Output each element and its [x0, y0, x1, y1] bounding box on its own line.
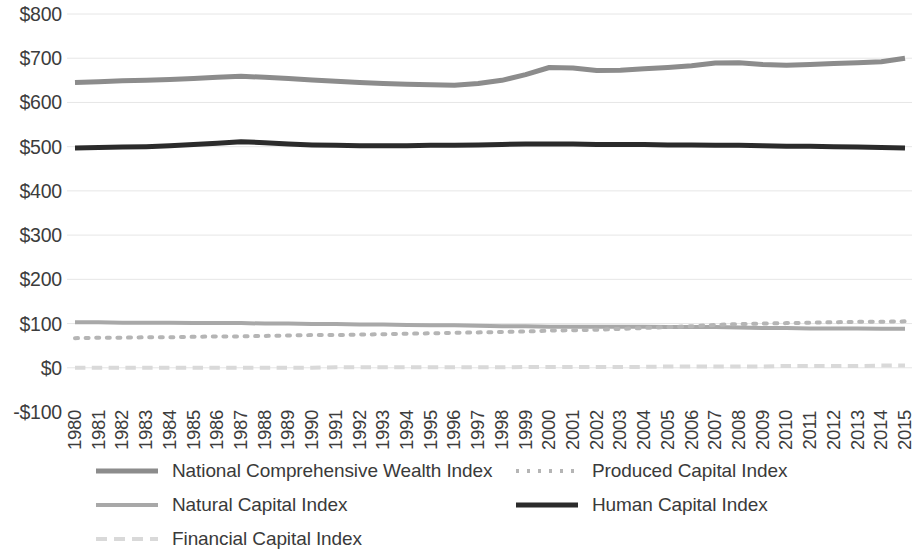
plot-area	[67, 8, 912, 376]
x-axis: 1980198119821983198419851986198719881989…	[67, 380, 912, 450]
x-axis-tick-label: 1998	[493, 410, 512, 450]
x-axis-tick-label: 2004	[635, 410, 654, 450]
x-axis-tick-label: 1987	[232, 410, 251, 450]
x-axis-tick-label: 1983	[137, 410, 156, 450]
y-axis-tick-label: -$100	[0, 401, 62, 424]
y-axis: $800$700$600$500$400$300$200$100$0-$100	[0, 0, 62, 420]
x-axis-tick-label: 2001	[564, 410, 583, 450]
x-axis-tick-label: 1993	[374, 410, 393, 450]
x-axis-tick-label: 1999	[517, 410, 536, 450]
legend-label: National Comprehensive Wealth Index	[172, 460, 492, 482]
x-axis-tick-label: 2005	[659, 410, 678, 450]
legend-item[interactable]: Natural Capital Index	[96, 492, 347, 518]
line-chart: $800$700$600$500$400$300$200$100$0-$100 …	[0, 0, 920, 554]
legend-label: Natural Capital Index	[172, 494, 347, 516]
x-axis-tick-label: 2013	[849, 410, 868, 450]
x-axis-tick-label: 2010	[777, 410, 796, 450]
x-axis-tick-label: 1986	[208, 410, 227, 450]
x-axis-tick-label: 2009	[754, 410, 773, 450]
x-axis-tick-label: 2015	[896, 410, 915, 450]
x-axis-tick-label: 2011	[801, 411, 820, 450]
legend-item[interactable]: National Comprehensive Wealth Index	[96, 458, 492, 484]
x-axis-tick-label: 1994	[398, 410, 417, 450]
x-axis-tick-label: 1996	[445, 410, 464, 450]
x-axis-tick-label: 1982	[113, 410, 132, 450]
x-axis-tick-label: 2003	[611, 410, 630, 450]
series-line	[75, 58, 905, 85]
y-axis-tick-label: $600	[0, 91, 62, 114]
legend-swatch-icon	[96, 532, 158, 546]
y-axis-tick-label: $500	[0, 135, 62, 158]
legend-swatch-icon	[516, 498, 578, 512]
y-axis-tick-label: $200	[0, 268, 62, 291]
legend-swatch-icon	[96, 464, 158, 478]
y-axis-tick-label: $400	[0, 179, 62, 202]
x-axis-tick-label: 1985	[185, 410, 204, 450]
x-axis-tick-label: 1995	[422, 410, 441, 450]
plot-svg	[67, 8, 912, 376]
y-axis-tick-label: $700	[0, 47, 62, 70]
x-axis-tick-label: 1981	[90, 410, 109, 450]
legend-swatch-icon	[516, 464, 578, 478]
x-axis-tick-label: 2000	[540, 410, 559, 450]
legend-item[interactable]: Human Capital Index	[516, 492, 768, 518]
chart-legend: National Comprehensive Wealth IndexNatur…	[96, 458, 856, 554]
y-axis-tick-label: $300	[0, 224, 62, 247]
legend-item[interactable]: Financial Capital Index	[96, 526, 362, 552]
x-axis-tick-label: 1980	[66, 410, 85, 450]
legend-item[interactable]: Produced Capital Index	[516, 458, 787, 484]
x-axis-tick-label: 2007	[706, 410, 725, 450]
x-axis-tick-label: 2014	[872, 410, 891, 450]
legend-label: Human Capital Index	[592, 494, 768, 516]
legend-swatch-icon	[96, 498, 158, 512]
x-axis-tick-label: 2012	[825, 410, 844, 450]
x-axis-tick-label: 1989	[279, 410, 298, 450]
y-axis-tick-label: $800	[0, 3, 62, 26]
x-axis-tick-label: 1992	[351, 410, 370, 450]
y-axis-tick-label: $100	[0, 312, 62, 335]
x-axis-tick-label: 2002	[588, 410, 607, 450]
x-axis-tick-label: 2008	[730, 410, 749, 450]
x-axis-tick-label: 2006	[683, 410, 702, 450]
legend-label: Financial Capital Index	[172, 528, 362, 550]
x-axis-tick-label: 1988	[256, 410, 275, 450]
x-axis-tick-label: 1984	[161, 410, 180, 450]
y-axis-tick-label: $0	[0, 356, 62, 379]
legend-label: Produced Capital Index	[592, 460, 787, 482]
x-axis-tick-label: 1991	[327, 410, 346, 450]
x-axis-tick-label: 1997	[469, 410, 488, 450]
x-axis-tick-label: 1990	[303, 410, 322, 450]
